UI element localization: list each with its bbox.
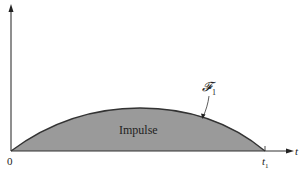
- impulse-diagram: [0, 0, 302, 169]
- x-axis-arrow-icon: [286, 149, 294, 154]
- curve-label-symbol: 𝓕: [202, 79, 212, 94]
- x-axis-label: t: [295, 146, 298, 157]
- origin-label: 0: [7, 156, 13, 167]
- curve-label-subscript: 1: [212, 88, 216, 97]
- curve-leader-line: [203, 96, 209, 117]
- t1-label-subscript: 1: [265, 162, 269, 169]
- curve-label: 𝓕1: [202, 80, 216, 97]
- y-axis-arrow-icon: [9, 4, 14, 12]
- impulse-label: Impulse: [119, 124, 158, 136]
- t1-label: t1: [262, 156, 269, 169]
